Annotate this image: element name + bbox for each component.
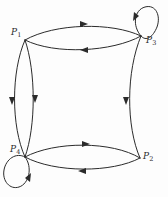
graph-canvas: [0, 0, 168, 197]
edge-p1-p4-outer: [15, 40, 26, 157]
self-loop-p3: [135, 7, 158, 39]
arrowhead-p3-p1: [80, 47, 88, 53]
vertex-label-p4-subscript: 4: [16, 148, 20, 156]
vertex-label-p2: P2: [143, 152, 153, 162]
edge-p1-p3-lower: [25, 36, 141, 50]
vertex-label-p1-subscript: 1: [17, 31, 21, 39]
edge-p4-p2-upper: [25, 145, 140, 158]
arrowhead-self-loop-p4: [25, 173, 31, 182]
edge-p3-p2: [130, 36, 141, 158]
vertex-label-p2-subscript: 2: [149, 155, 153, 163]
vertex-label-p4: P4: [10, 145, 20, 155]
vertex-label-p3: P3: [146, 36, 156, 46]
arrowhead-self-loop-p3: [133, 12, 139, 21]
arrowhead-p3-p2: [123, 97, 129, 105]
edge-p4-p2-lower: [25, 157, 140, 169]
arrowhead-p4-p2: [82, 141, 90, 147]
edge-p1-p4-inner: [25, 40, 33, 157]
directed-graph-figure: P1 P3 P4 P2: [0, 0, 168, 197]
edge-p1-p3-upper: [25, 26, 141, 40]
arrowhead-group: [9, 12, 139, 182]
vertex-label-p1: P1: [11, 28, 21, 38]
self-loop-p4: [4, 155, 30, 187]
vertex-label-p3-subscript: 3: [152, 39, 156, 47]
edge-group: [4, 7, 159, 188]
